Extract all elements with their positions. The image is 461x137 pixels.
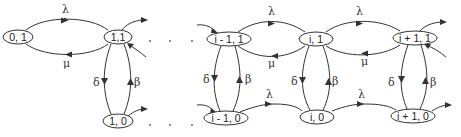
edge-label-mu: μ: [361, 55, 368, 68]
edge-label-beta: β: [332, 75, 338, 88]
edge-label-lambda: λ: [268, 5, 275, 18]
ellipsis-dots: [149, 40, 193, 126]
edge-label-delta: δ: [93, 76, 100, 89]
edge-lambda-im10-i0: [240, 104, 302, 112]
right-block: λ μ λ μ δ β δ β δ: [197, 5, 452, 125]
state-node: i + 1, 0: [391, 109, 435, 123]
edge-label-lambda: λ: [266, 88, 273, 101]
edge-label-delta: δ: [291, 75, 298, 88]
state-node: 1,1: [104, 30, 132, 44]
state-label: i + 1, 0: [397, 110, 429, 122]
edge-label-beta: β: [134, 76, 140, 89]
edge-mu-i1-im11: [238, 46, 305, 57]
state-node: i + 1, 1: [393, 31, 437, 45]
edge-label-lambda: λ: [356, 5, 363, 18]
arrowhead-icon: [141, 106, 148, 112]
state-label: 1, 0: [109, 115, 127, 127]
arrowhead-icon: [299, 77, 306, 84]
edge-beta-ip10-ip11: [420, 45, 427, 109]
edge-label-delta: δ: [388, 76, 395, 89]
arrowhead-icon: [101, 78, 108, 85]
state-node: i - 1, 0: [204, 111, 248, 125]
state-node: i, 0: [300, 110, 334, 124]
arrowhead-icon: [141, 17, 148, 23]
arrowhead-icon: [398, 76, 405, 83]
arrowhead-icon: [440, 19, 447, 25]
left-block: λ μ δ β 0, 1 1,1 1, 0: [3, 3, 148, 128]
state-node: i, 1: [299, 32, 333, 46]
arrowhead-icon: [445, 102, 452, 108]
arrowhead-icon: [265, 101, 272, 107]
state-node: 1, 0: [103, 114, 133, 128]
edge-beta-i0-i1: [323, 46, 330, 110]
markov-chain-diagram: λ μ δ β 0, 1 1,1 1, 0: [0, 0, 461, 137]
arrowhead-icon: [422, 77, 429, 84]
arrowhead-icon: [236, 76, 243, 83]
edge-lambda-i0-ip10: [332, 104, 396, 111]
arrowhead-icon: [357, 101, 364, 107]
edge-mu-11-01: [26, 44, 108, 55]
state-node: i - 1, 1: [207, 32, 251, 46]
edge-beta-10-11: [124, 44, 131, 114]
state-label: i, 1: [309, 33, 323, 45]
arrowhead-icon: [211, 75, 218, 82]
state-label: 0, 1: [9, 31, 27, 43]
edge-lambda-i1-ip11: [326, 21, 400, 32]
state-node: 0, 1: [3, 30, 33, 44]
edge-label-delta: δ: [203, 73, 210, 86]
state-label: i - 1, 0: [211, 112, 240, 124]
edge-label-mu: μ: [268, 57, 275, 70]
arrowhead-icon: [127, 78, 134, 85]
state-label: i - 1, 1: [214, 33, 243, 45]
edge-label-lambda: λ: [62, 3, 69, 16]
state-label: i + 1, 1: [399, 32, 431, 44]
state-label: i, 0: [310, 111, 324, 123]
edge-label-mu: μ: [63, 57, 70, 70]
edge-label-beta: β: [430, 76, 436, 89]
state-label: 1,1: [111, 31, 126, 43]
arrowhead-icon: [325, 78, 332, 85]
edge-label-lambda: λ: [358, 88, 365, 101]
edge-label-beta: β: [245, 73, 251, 86]
arrowhead-icon: [127, 43, 134, 49]
